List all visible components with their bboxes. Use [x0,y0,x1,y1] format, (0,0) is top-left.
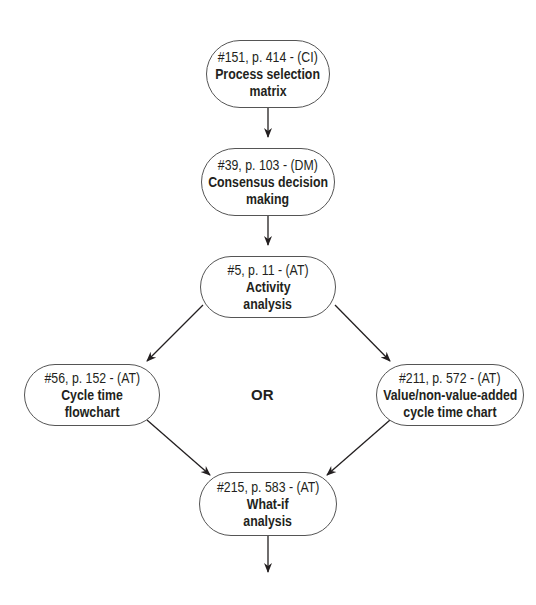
node-cycle-time-flowchart: #56, p. 152 - (AT) Cycle time flowchart [24,364,160,426]
node-title: Value/non-value-added [383,387,517,404]
node-title: analysis [244,296,293,313]
node-title: making [246,191,289,208]
node-activity-analysis: #5, p. 11 - (AT) Activity analysis [200,256,336,318]
node-ref: #5, p. 11 - (AT) [227,262,308,279]
node-ref: #151, p. 414 - (CI) [218,49,318,66]
node-ref: #215, p. 583 - (AT) [217,479,319,496]
node-ref: #39, p. 103 - (DM) [218,157,318,174]
or-label: OR [251,386,274,403]
node-value-non-value-added-cycle-time-chart: #211, p. 572 - (AT) Value/non-value-adde… [376,364,524,426]
node-what-if-analysis: #215, p. 583 - (AT) What-if analysis [199,472,337,536]
node-process-selection-matrix: #151, p. 414 - (CI) Process selection ma… [206,40,330,108]
node-title: Activity [246,279,291,296]
node-title: analysis [244,513,293,530]
node-title: cycle time chart [403,404,496,421]
node-title: flowchart [65,404,120,421]
node-title: Consensus decision [208,174,328,191]
node-ref: #211, p. 572 - (AT) [399,370,501,387]
node-consensus-decision-making: #39, p. 103 - (DM) Consensus decision ma… [201,148,335,216]
node-title: matrix [250,83,287,100]
node-title: What-if [247,496,289,513]
node-ref: #56, p. 152 - (AT) [44,370,140,387]
node-title: Process selection [216,66,321,83]
node-title: Cycle time [61,387,123,404]
